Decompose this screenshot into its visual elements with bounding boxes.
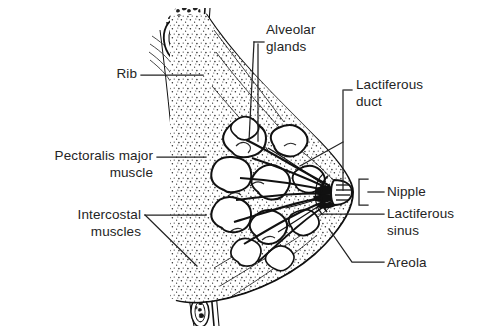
label-nipple: Nipple bbox=[387, 184, 483, 201]
label-lactiferous-sinus: Lactiferous sinus bbox=[387, 206, 486, 239]
label-rib: Rib bbox=[4, 66, 137, 83]
label-pectoralis-major-muscle: Pectoralis major muscle bbox=[4, 148, 153, 181]
label-intercostal-muscles: Intercostal muscles bbox=[4, 207, 141, 240]
label-areola: Areola bbox=[387, 255, 483, 272]
breast-anatomy-figure: Rib Pectoralis major muscle Intercostal … bbox=[0, 0, 486, 326]
label-lactiferous-duct: Lactiferous duct bbox=[356, 77, 482, 110]
label-alveolar-glands: Alveolar glands bbox=[266, 22, 376, 55]
